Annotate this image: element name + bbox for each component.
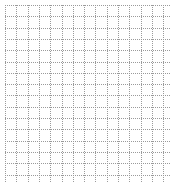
grid-vertical-line [95, 5, 96, 182]
grid-horizontal-line [5, 5, 170, 6]
grid-horizontal-line [5, 84, 170, 85]
grid-horizontal-line [5, 141, 170, 142]
grid-vertical-line [84, 5, 85, 182]
grid-vertical-line [107, 5, 108, 182]
grid-horizontal-line [5, 16, 170, 17]
grid-vertical-line [39, 5, 40, 182]
grid-vertical-line [141, 5, 142, 182]
grid-vertical-line [129, 5, 130, 182]
grid-vertical-line [28, 5, 29, 182]
grid-horizontal-line [5, 28, 170, 29]
grid-horizontal-line [5, 50, 170, 51]
grid-horizontal-line [5, 39, 170, 40]
grid-horizontal-line [5, 163, 170, 164]
grid-horizontal-line [5, 152, 170, 153]
grid-vertical-line [5, 5, 6, 182]
grid-vertical-line [118, 5, 119, 182]
grid-vertical-line [50, 5, 51, 182]
grid-horizontal-line [5, 129, 170, 130]
grid-horizontal-line [5, 95, 170, 96]
grid-vertical-line [16, 5, 17, 182]
grid-horizontal-line [5, 175, 170, 176]
grid-horizontal-line [5, 62, 170, 63]
grid-vertical-line [62, 5, 63, 182]
grid-horizontal-line [5, 107, 170, 108]
grid-vertical-line [73, 5, 74, 182]
grid-vertical-line [163, 5, 164, 182]
grid-horizontal-line [5, 73, 170, 74]
dotted-grid [0, 0, 173, 185]
grid-vertical-line [152, 5, 153, 182]
grid-horizontal-line [5, 118, 170, 119]
